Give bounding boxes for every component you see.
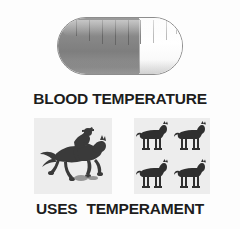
- standing-horse-icon: [136, 121, 170, 153]
- horse-rider-icon: [34, 118, 112, 194]
- capsule-tick-5: [128, 20, 129, 45]
- capsule-tick-4: [115, 20, 116, 45]
- horse-cell: [134, 118, 172, 156]
- panel-four-horses: [134, 118, 210, 194]
- capsule-tick-6: [140, 20, 141, 44]
- capsule-body: [57, 17, 183, 75]
- capsule-tick-7: [153, 20, 154, 43]
- standing-horse-icon: [136, 159, 170, 191]
- caption-uses-temperament: USESTEMPERAMENT: [0, 200, 240, 218]
- horse-grid: [134, 118, 210, 194]
- standing-horse-icon: [174, 159, 208, 191]
- horse-cell: [172, 156, 210, 194]
- capsule-tick-3: [102, 20, 103, 44]
- caption-blood-temperature: BLOOD TEMPERATURE: [0, 90, 240, 108]
- horse-cell: [172, 118, 210, 156]
- capsule-dark-half: [58, 18, 139, 74]
- capsule-illustration: [57, 17, 183, 75]
- capsule-tick-8: [166, 20, 167, 40]
- horse-cell: [134, 156, 172, 194]
- figure-canvas: BLOOD TEMPERATURE: [0, 0, 240, 229]
- capsule-tick-1: [76, 20, 77, 36]
- caption-temperament: TEMPERAMENT: [86, 200, 204, 217]
- panel-horse-rider: [34, 118, 112, 194]
- capsule-tick-9: [176, 20, 177, 34]
- capsule-tick-2: [89, 20, 90, 41]
- standing-horse-icon: [174, 121, 208, 153]
- caption-uses: USES: [36, 200, 77, 217]
